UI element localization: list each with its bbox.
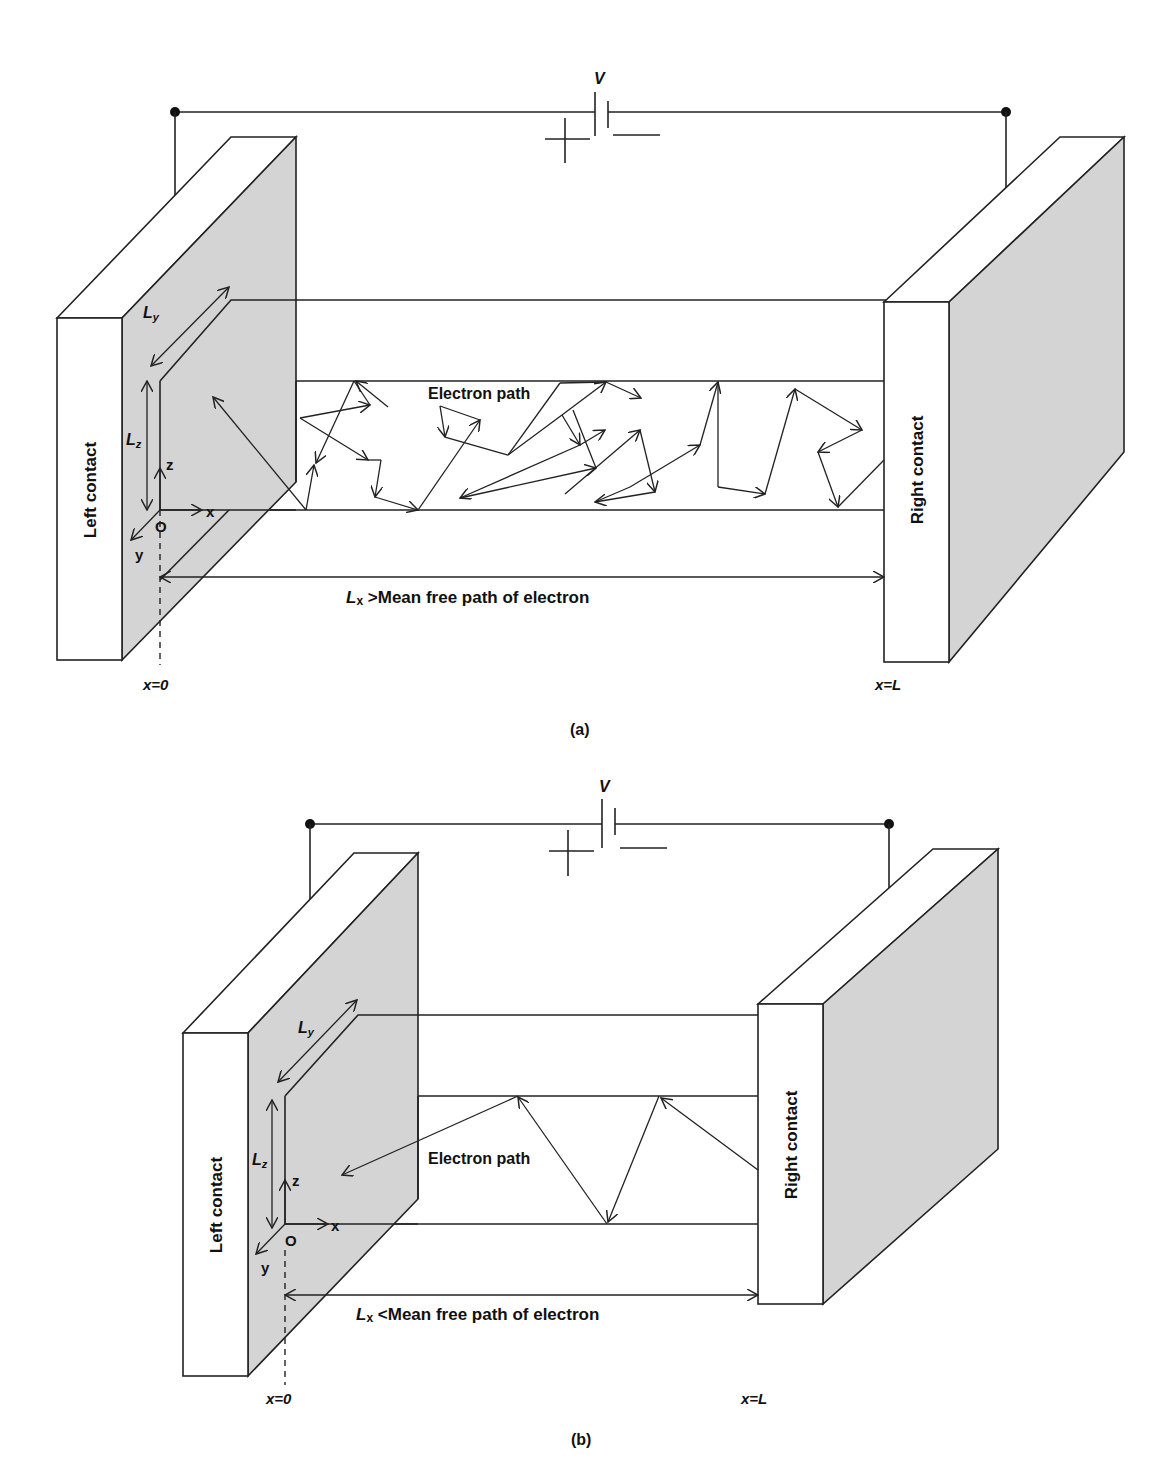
right-contact-label: Right contact	[908, 415, 927, 524]
right-contact-a: Right contact	[884, 137, 1124, 662]
left-contact-label: Left contact	[81, 441, 100, 538]
x-end-label: x=L	[874, 676, 901, 693]
svg-text:x: x	[206, 503, 215, 520]
x-start-label: x=0	[142, 676, 169, 693]
left-contact-b: Left contact	[183, 853, 418, 1376]
right-contact-label: Right contact	[782, 1090, 801, 1199]
plus-sign-icon	[545, 118, 590, 163]
svg-text:x: x	[331, 1217, 340, 1234]
svg-text:y: y	[135, 546, 144, 563]
electron-path-a: Electron path	[213, 381, 884, 510]
conduction-diagram: V Left contact Right contact	[0, 0, 1161, 1476]
electron-path-label: Electron path	[428, 1150, 530, 1167]
svg-text:O: O	[285, 1232, 297, 1249]
left-contact-a: Left contact	[57, 137, 296, 660]
caption-b: (b)	[571, 1431, 591, 1448]
lx-label: Lx <Mean free path of electron	[356, 1305, 599, 1325]
left-contact-label: Left contact	[207, 1156, 226, 1253]
x-end-label: x=L	[740, 1390, 767, 1407]
x-start-label: x=0	[265, 1390, 292, 1407]
panel-a: V Left contact Right contact	[57, 70, 1124, 738]
panel-b: V Left contact Right contact Ly Lz	[183, 778, 998, 1448]
svg-text:z: z	[292, 1172, 300, 1189]
electron-path-label: Electron path	[428, 385, 530, 402]
caption-a: (a)	[570, 721, 590, 738]
voltage-label: V	[594, 70, 606, 87]
svg-text:O: O	[155, 518, 167, 535]
plus-sign-icon	[549, 830, 594, 876]
svg-text:y: y	[261, 1259, 270, 1276]
svg-text:z: z	[166, 456, 174, 473]
voltage-label: V	[599, 778, 611, 795]
right-contact-b: Right contact	[758, 849, 998, 1304]
lx-label: Lx >Mean free path of electron	[346, 588, 589, 608]
